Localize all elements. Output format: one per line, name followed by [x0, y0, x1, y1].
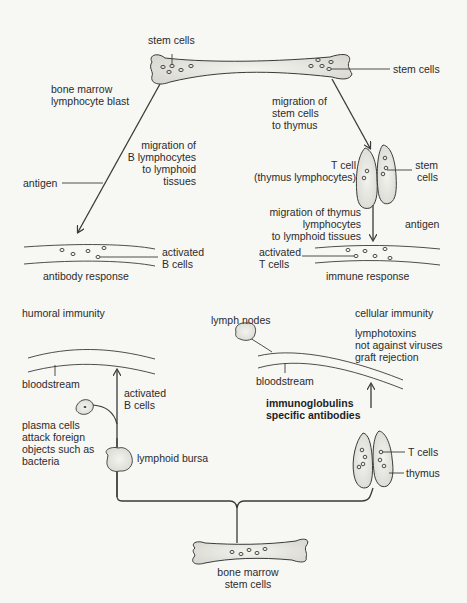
label-lymphoid-bursa: lymphoid bursa [137, 452, 208, 464]
label-bone-marrow-stem-cells: bone marrow stem cells [208, 566, 288, 590]
label-activated-b-top: activated B cells [162, 246, 204, 270]
label-bloodstream-left: bloodstream [22, 378, 80, 390]
label-antigen-right: antigen [405, 218, 439, 230]
label-humoral-immunity: humoral immunity [22, 307, 105, 319]
label-migration-b: migration of B lymphocytes to lymphoid t… [120, 139, 196, 187]
label-immune-response: immune response [326, 270, 409, 282]
label-thymus: thymus [406, 467, 440, 479]
label-activated-b-bottom: activated B cells [124, 387, 166, 411]
label-immunoglobulins: immunoglobulins specific antibodies [266, 397, 361, 421]
label-t-cell: T cell (thymus lymphocytes) [250, 159, 356, 183]
label-antibody-response: antibody response [43, 270, 129, 282]
plasma-cell-icon [76, 400, 93, 415]
label-lymph-nodes: lymph nodes [211, 314, 271, 326]
label-activated-t: activated T cells [259, 246, 301, 270]
label-cellular-effects: lymphotoxins not against viruses graft r… [355, 327, 443, 363]
thymus-top-icon [356, 145, 396, 208]
label-plasma-cells: plasma cells attack foreign objects such… [22, 419, 94, 467]
connector-lines [117, 472, 373, 508]
label-stem-cells-top: stem cells [148, 34, 195, 46]
label-migration-thymus: migration of thymus lymphocytes to lymph… [258, 206, 361, 242]
vessel-t-cells [315, 245, 440, 265]
arrow-stem-to-thymus [332, 79, 370, 148]
label-thymus-stem-cells: stem cells [410, 159, 438, 183]
label-t-cells-bottom: T cells [408, 446, 438, 458]
label-stem-cells-right: stem cells [393, 63, 440, 75]
label-bone-marrow-blast: bone marrow lymphocyte blast [51, 83, 129, 107]
vessel-b-cells [24, 245, 155, 266]
label-migration-stem: migration of stem cells to thymus [272, 95, 327, 131]
lymphoid-bursa-icon [106, 447, 132, 471]
label-cellular-immunity: cellular immunity [355, 307, 433, 319]
bone-top-icon [151, 55, 352, 84]
label-bloodstream-right: bloodstream [256, 375, 314, 387]
thymus-bottom-icon [353, 431, 393, 488]
label-antigen-left: antigen [23, 177, 57, 189]
bloodstream-left [28, 349, 155, 374]
bone-bottom-icon [193, 539, 308, 564]
